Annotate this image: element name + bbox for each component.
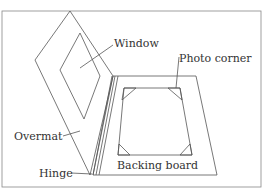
window-shape — [60, 33, 100, 119]
label-hinge: Hinge — [39, 167, 73, 180]
photo-corner-top-right — [168, 88, 182, 100]
label-overmat: Overmat — [14, 130, 63, 143]
photo-corner-bottom-left — [118, 144, 130, 155]
photo-corner-top-left — [122, 88, 136, 100]
window-leader — [80, 45, 113, 68]
label-photo-corner: Photo corner — [179, 52, 252, 65]
mat-assembly-diagram: Window Photo corner Overmat Hinge Backin… — [0, 0, 263, 189]
photo-corner-bottom-right — [180, 144, 192, 155]
overmat-leader — [63, 131, 80, 136]
label-window: Window — [114, 37, 159, 50]
overmat-shape — [35, 11, 118, 175]
label-backing-board: Backing board — [117, 159, 198, 172]
